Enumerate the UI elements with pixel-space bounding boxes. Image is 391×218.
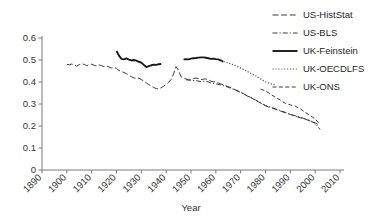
legend-item-label: US-HistStat — [303, 10, 353, 20]
svg-text:1910: 1910 — [70, 172, 93, 195]
legend-item-us-bls[interactable]: US-BLS — [272, 24, 391, 42]
svg-text:1920: 1920 — [95, 172, 118, 195]
legend-item-label: US-BLS — [303, 28, 337, 38]
svg-text:0.1: 0.1 — [23, 142, 36, 153]
svg-text:2010: 2010 — [319, 172, 342, 195]
series-line-uk-oecdlfs — [221, 61, 276, 85]
svg-text:1900: 1900 — [46, 172, 69, 195]
svg-text:1930: 1930 — [120, 172, 143, 195]
svg-text:1890: 1890 — [21, 172, 44, 195]
x-axis-title: Year — [181, 202, 200, 213]
legend-item-uk-feinstein[interactable]: UK-Feinstein — [272, 42, 391, 60]
svg-text:0.3: 0.3 — [23, 98, 36, 109]
legend-item-uk-ons[interactable]: UK-ONS — [272, 78, 391, 96]
svg-text:1980: 1980 — [244, 172, 267, 195]
svg-text:1990: 1990 — [269, 172, 292, 195]
legend-item-us-histstat[interactable]: US-HistStat — [272, 6, 391, 24]
series-line-uk-feinstein — [117, 51, 162, 67]
chart-container: 00.10.20.30.40.50.6189019001910192019301… — [0, 0, 391, 218]
legend-item-label: UK-ONS — [303, 82, 340, 92]
svg-text:0.2: 0.2 — [23, 120, 36, 131]
svg-text:0.5: 0.5 — [23, 54, 36, 65]
legend-swatch-icon — [272, 46, 298, 56]
svg-text:1970: 1970 — [219, 172, 242, 195]
legend-item-label: UK-OECDLFS — [303, 64, 364, 74]
legend-swatch-icon — [272, 82, 298, 92]
legend-item-label: UK-Feinstein — [303, 46, 358, 56]
chart-legend: US-HistStatUS-BLSUK-FeinsteinUK-OECDLFSU… — [272, 6, 391, 96]
svg-text:1940: 1940 — [145, 172, 168, 195]
svg-text:1960: 1960 — [195, 172, 218, 195]
legend-item-uk-oecdlfs[interactable]: UK-OECDLFS — [272, 60, 391, 78]
legend-swatch-icon — [272, 28, 298, 38]
legend-swatch-icon — [272, 10, 298, 20]
svg-text:0.6: 0.6 — [23, 32, 36, 43]
svg-text:0.4: 0.4 — [23, 76, 36, 87]
svg-text:2000: 2000 — [294, 172, 317, 195]
svg-text:1950: 1950 — [170, 172, 193, 195]
legend-swatch-icon — [272, 64, 298, 74]
series-line-uk-feinstein — [184, 57, 224, 61]
